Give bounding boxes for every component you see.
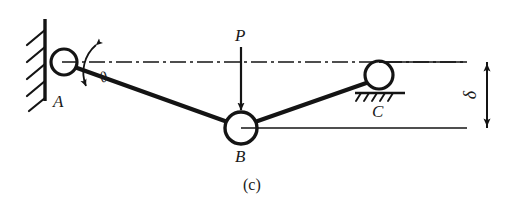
roller-circle-c	[365, 61, 393, 89]
truss-members	[66, 64, 372, 125]
truss-deflection-figure: A B C P θ δ (c)	[0, 0, 517, 211]
wall-hatching	[27, 30, 45, 111]
member-ab	[66, 64, 236, 125]
member-bc	[252, 81, 372, 123]
roller-support-c	[355, 61, 405, 101]
label-point-b: B	[235, 148, 245, 165]
angle-arc-theta	[83, 45, 96, 86]
label-point-c: C	[372, 103, 383, 120]
angle-dimension-theta	[83, 45, 96, 86]
figure-caption: (c)	[243, 176, 261, 194]
fixed-wall	[27, 19, 45, 111]
label-point-a: A	[53, 93, 63, 110]
label-load-p: P	[235, 27, 245, 44]
label-deflection-delta: δ	[461, 91, 479, 99]
